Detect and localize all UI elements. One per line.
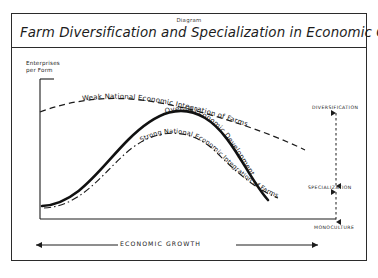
curve-overall-development: [42, 111, 268, 206]
scale-label-diversification: DIVERSIFICATION: [312, 105, 358, 110]
curve-label-strong: Strong National Economic Integration of …: [138, 127, 280, 200]
x-axis-label: ECONOMIC GROWTH: [120, 240, 201, 247]
diagram-figure: Diagram Farm Diversification and Special…: [0, 0, 378, 278]
plot-area: Weak National Economic Integration of Fa…: [0, 0, 378, 278]
scale-label-specialization: SPECIALIZATION: [308, 185, 352, 190]
scale-label-monoculture: MONOCULTURE: [314, 225, 354, 230]
